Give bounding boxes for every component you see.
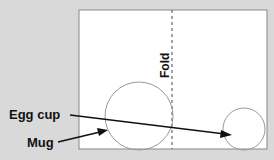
fold-diagram: Fold Egg cup Mug — [0, 0, 274, 160]
mug-label: Mug — [27, 135, 54, 150]
fold-label: Fold — [158, 53, 172, 78]
egg-cup-label: Egg cup — [9, 107, 60, 122]
